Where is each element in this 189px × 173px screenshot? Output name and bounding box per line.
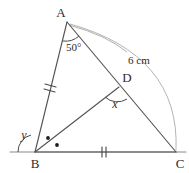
measure-arc-ac bbox=[70, 24, 176, 150]
angle-label-b-exterior: y bbox=[20, 128, 27, 142]
angle-label-d: x bbox=[111, 97, 118, 111]
segment-ab bbox=[35, 22, 67, 152]
tick-marks-ab bbox=[44, 84, 56, 92]
equal-angle-dot-abd bbox=[46, 136, 50, 140]
segment-bd bbox=[35, 87, 119, 152]
angle-label-a: 50° bbox=[66, 41, 81, 53]
measure-label-ac: 6 cm bbox=[128, 54, 150, 66]
equal-angle-dot-dbc bbox=[55, 143, 59, 147]
vertex-label-a: A bbox=[56, 5, 66, 20]
vertex-label-c: C bbox=[176, 156, 185, 171]
segment-ac bbox=[67, 22, 176, 152]
vertex-label-b: B bbox=[31, 156, 40, 171]
geometry-diagram: A B C D 50° x y 6 cm bbox=[0, 0, 189, 173]
vertex-label-d: D bbox=[122, 70, 131, 85]
geometry-canvas: A B C D 50° x y 6 cm bbox=[0, 0, 189, 173]
